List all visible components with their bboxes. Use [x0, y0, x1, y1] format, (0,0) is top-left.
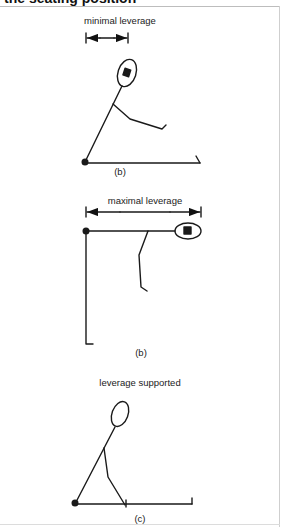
figure-c [72, 399, 193, 507]
figure-a [82, 33, 201, 166]
figure-b [83, 207, 202, 344]
leverage-diagram [0, 0, 284, 527]
